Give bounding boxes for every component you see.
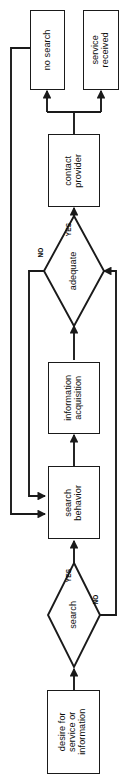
edge-adequate-no-to-search-behavior	[29, 271, 45, 496]
edge-label-adequate-no: NO	[37, 248, 44, 258]
node-adequate-label: adequate	[69, 252, 79, 291]
node-desire[interactable]: desire for service or information	[47, 690, 100, 774]
node-adequate[interactable]: adequate	[44, 216, 104, 326]
edge-label-adequate-yes: YES	[65, 223, 72, 236]
node-contact-provider-label: contact provider	[64, 154, 84, 188]
node-information-acquisition[interactable]: information acquisition	[48, 362, 100, 434]
node-search-label: search	[69, 601, 79, 629]
node-desire-label: desire for service or information	[59, 709, 88, 755]
edge-label-search-no: NO	[92, 595, 99, 605]
edge-no-search-to-search-behavior	[11, 48, 45, 514]
node-no-search[interactable]: no search	[30, 10, 65, 90]
node-service-received[interactable]: service received	[83, 10, 119, 90]
node-search-behavior[interactable]: search behavior	[48, 466, 100, 539]
node-no-search-label: no search	[43, 30, 53, 71]
node-search-behavior-label: search behavior	[64, 485, 84, 521]
node-information-acquisition-label: information acquisition	[64, 375, 84, 421]
flowchart-canvas: no search service received contact provi…	[0, 0, 125, 780]
node-search[interactable]: search	[48, 563, 100, 667]
node-contact-provider[interactable]: contact provider	[48, 134, 100, 207]
node-service-received-label: service received	[91, 32, 111, 67]
edge-label-search-yes: YES	[65, 569, 72, 582]
